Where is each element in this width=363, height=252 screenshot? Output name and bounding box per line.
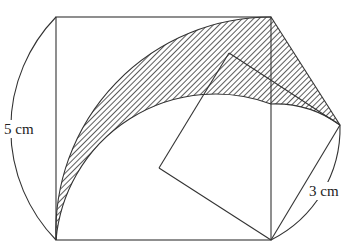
- small-square-edge-4: [159, 168, 271, 240]
- hatched-region-lens: [56, 17, 340, 240]
- label-3cm: 3 cm: [309, 183, 339, 199]
- geometry-diagram: 5 cm 3 cm: [0, 0, 363, 252]
- label-5cm: 5 cm: [4, 121, 34, 137]
